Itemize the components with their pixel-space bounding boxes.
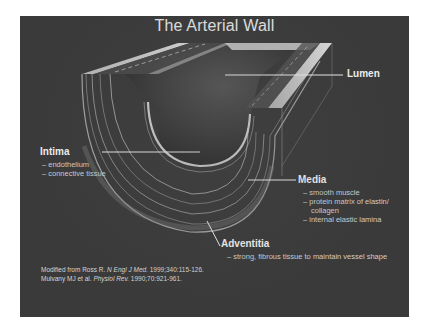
intima-item: – connective tissue xyxy=(42,169,106,179)
intima-label: Intima xyxy=(40,146,69,157)
media-label: Media xyxy=(298,174,326,185)
media-item: – internal elastic lamina xyxy=(303,215,381,225)
lumen-label: Lumen xyxy=(347,68,380,79)
reference-line: Mulvany MJ et al. Physiol Rev. 1990;70:9… xyxy=(41,274,204,283)
slide: The Arterial Wall xyxy=(20,16,409,317)
adventitia-label: Adventitia xyxy=(221,238,269,249)
reference-line: Modified from Ross R. N Engl J Med. 1999… xyxy=(41,265,204,274)
adventitia-item: – strong, fibrous tissue to maintain ves… xyxy=(227,252,387,262)
references: Modified from Ross R. N Engl J Med. 1999… xyxy=(41,265,204,283)
